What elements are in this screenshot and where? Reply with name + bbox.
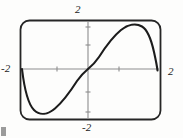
axes [22,22,159,118]
graph-figure: 2 -2 2 -2 [0,0,183,138]
axis-label-left: -2 [1,63,10,74]
scan-edge-artifact [1,127,6,136]
axis-label-top: 2 [75,4,81,15]
axis-label-bottom: -2 [82,122,91,133]
plot-area [0,0,183,138]
viewing-window-frame [21,21,161,120]
axis-label-right: 2 [168,66,174,77]
